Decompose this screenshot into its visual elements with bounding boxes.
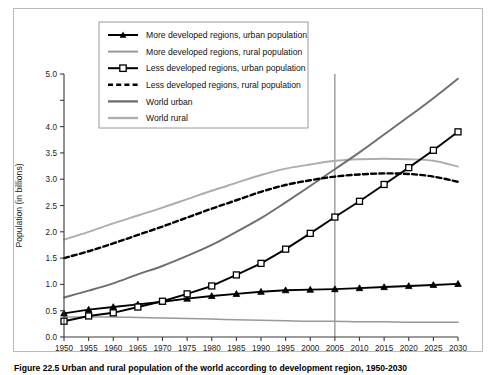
data-point-marker [283,246,289,252]
figure-caption: Figure 22.5 Urban and rural population o… [14,357,494,375]
data-point-marker [455,129,461,135]
x-tick-label: 1975 [178,344,197,353]
y-tick-label: 4.0 [46,123,58,132]
y-tick-label: 3.0 [46,175,58,184]
y-tick-label: 0.0 [46,333,58,342]
data-point-marker [406,165,412,171]
x-tick-label: 1985 [227,344,246,353]
x-tick-label: 1960 [104,344,123,353]
x-tick-label: 2030 [449,344,468,353]
x-tick-label: 1990 [252,344,271,353]
x-tick-label: 1995 [277,344,296,353]
y-tick-label: 0.5 [46,307,58,316]
x-tick-label: 1980 [203,344,222,353]
y-tick-label: 3.5 [46,149,58,158]
y-tick-label: 5.0 [46,70,58,79]
x-tick-label: 1955 [80,344,99,353]
data-point-marker [381,181,387,187]
y-tick-label: 2.0 [46,228,58,237]
data-point-marker [135,304,141,310]
data-point-marker [160,298,166,304]
series-3 [64,173,458,258]
x-tick-label: 2025 [424,344,443,353]
series-line [64,317,458,322]
data-point-marker [209,283,215,289]
data-point-marker [86,313,92,319]
x-tick-label: 2015 [375,344,394,353]
x-tick-label: 2000 [301,344,320,353]
x-tick-label: 2005 [326,344,345,353]
legend-label: More developed regions, rural population [146,47,302,57]
y-tick-label: 1.5 [46,254,58,263]
data-point-marker [307,230,313,236]
series-1 [64,317,458,322]
y-tick-label: 2.5 [46,202,58,211]
data-point-marker [233,272,239,278]
figure-caption-text: Figure 22.5 Urban and rural population o… [14,363,407,373]
y-tick-label: 1.0 [46,280,58,289]
legend-label: World urban [146,97,193,107]
data-point-marker [110,310,116,316]
data-point-marker [430,147,436,153]
x-tick-label: 1950 [55,344,74,353]
legend-label: Less developed regions, urban population [146,63,306,73]
chart-legend: More developed regions, urban population… [99,22,308,128]
series-line [64,159,458,240]
data-point-marker [258,260,264,266]
data-point-marker [332,214,338,220]
y-axis-title: Population (in billions) [14,163,24,247]
x-tick-label: 1965 [129,344,148,353]
series-line [64,173,458,258]
data-point-marker [184,291,190,297]
x-tick-label: 1970 [153,344,172,353]
legend-marker-square [120,65,126,71]
x-tick-label: 2020 [400,344,419,353]
data-point-marker [357,198,363,204]
x-tick-label: 2010 [350,344,369,353]
legend-label: World rural [146,113,188,123]
series-5 [64,159,458,240]
legend-label: More developed regions, urban population [146,30,307,40]
legend-label: Less developed regions, rural population [146,80,301,90]
